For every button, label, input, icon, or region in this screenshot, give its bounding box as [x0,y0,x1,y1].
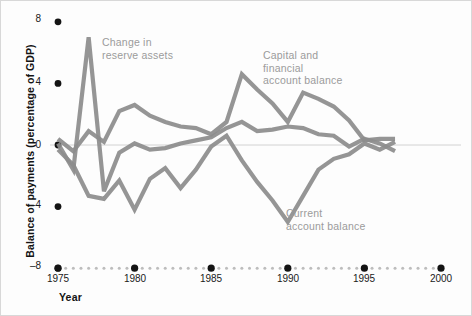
chart-plot-area [1,1,472,316]
y-tick-label-0: 0 [15,139,41,150]
annotation-current-account-line2: account balance [286,220,365,233]
annotation-capital-financial-line2: financial [263,62,342,75]
chart-figure: Balance of payments (percentage of GDP) … [0,0,472,316]
annotation-current-account-line1: Current [286,207,365,220]
annotation-capital-financial-line1: Capital and [263,49,342,62]
series-lines [58,37,395,222]
annotation-reserve-assets-line2: reserve assets [102,49,173,62]
annotation-reserve-assets-line1: Change in [102,36,173,49]
x-axis-title: Year [59,291,82,303]
y-axis-title: Balance of payments (percentage of GDP) [24,26,36,276]
y-tick-label-8: 8 [15,13,41,24]
x-tick-label-1990: 1990 [268,273,308,284]
x-tick-label-1985: 1985 [191,273,231,284]
annotation-capital-financial-line3: account balance [263,74,342,87]
annotation-capital-financial: Capital and financial account balance [263,49,342,87]
y-tick-label-neg8: –8 [15,260,41,271]
annotation-current-account: Current account balance [286,207,365,232]
annotation-reserve-assets: Change in reserve assets [102,36,173,61]
y-tick-label-neg4: –4 [15,199,41,210]
x-axis-dotted-line [57,267,443,270]
y-tick-label-4: 4 [15,76,41,87]
x-tick-label-1995: 1995 [344,273,384,284]
x-tick-label-1980: 1980 [115,273,155,284]
x-tick-label-1975: 1975 [38,273,78,284]
x-tick-label-2000: 2000 [421,273,461,284]
